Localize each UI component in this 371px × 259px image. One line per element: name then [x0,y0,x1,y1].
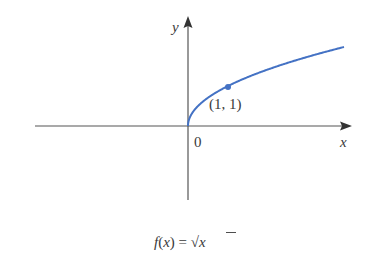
origin-label: 0 [194,134,202,150]
sqrt-curve [188,47,344,126]
point-1-1-marker [225,84,231,90]
point-label: (1, 1) [209,96,242,113]
function-caption: f(x) = √x [154,234,206,251]
sqrt-function-graph: y x 0 (1, 1) f(x) = √x [0,0,371,259]
x-axis-label: x [339,134,347,150]
caption-close: ) = √ [170,234,200,251]
caption-x2: x [198,234,206,250]
y-axis-label: y [170,19,179,35]
